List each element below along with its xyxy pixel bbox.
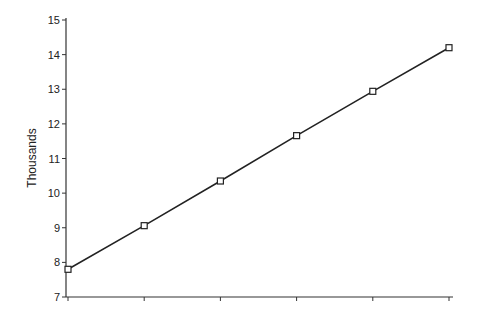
y-tick-label: 7: [54, 291, 60, 303]
y-axis: 789101112131415: [48, 14, 66, 303]
data-point-marker: [446, 45, 452, 51]
line-chart: 789101112131415 Thousands: [0, 0, 480, 314]
y-tick-label: 12: [48, 118, 60, 130]
data-series: [65, 45, 452, 273]
data-point-marker: [141, 223, 147, 229]
series-line: [68, 48, 449, 270]
y-tick-label: 15: [48, 14, 60, 26]
y-tick-label: 8: [54, 256, 60, 268]
data-point-marker: [294, 133, 300, 139]
y-tick-label: 10: [48, 187, 60, 199]
y-tick-label: 14: [48, 49, 60, 61]
y-tick-label: 13: [48, 83, 60, 95]
y-tick-label: 11: [49, 153, 60, 165]
y-tick-label: 9: [54, 222, 60, 234]
x-axis: [66, 297, 453, 301]
data-point-marker: [370, 88, 376, 94]
data-point-marker: [65, 266, 71, 272]
y-axis-label: Thousands: [25, 128, 39, 187]
data-point-marker: [217, 178, 223, 184]
